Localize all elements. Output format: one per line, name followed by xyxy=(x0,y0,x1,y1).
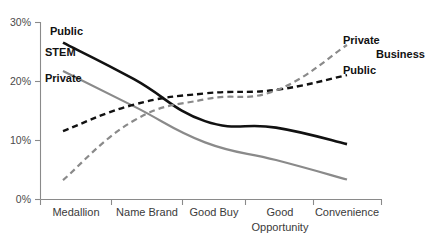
x-label-good-opportunity-line1: Good xyxy=(267,206,294,218)
x-label-good-opportunity-line2: Opportunity xyxy=(252,221,309,233)
label-stem-private: Private xyxy=(45,72,82,84)
label-stem-group: STEM xyxy=(45,46,76,58)
x-label-convenience: Convenience xyxy=(315,206,379,218)
label-stem-public: Public xyxy=(50,25,83,37)
y-tick-label-0: 0% xyxy=(16,193,31,205)
line-chart: 30% 20% 10% 0% Medallion Name Brand Good… xyxy=(0,0,431,247)
y-tick-label-30: 30% xyxy=(10,16,31,28)
y-tick-label-10: 10% xyxy=(10,134,31,146)
x-label-good-buy: Good Buy xyxy=(190,206,239,218)
chart-container: 30% 20% 10% 0% Medallion Name Brand Good… xyxy=(0,0,431,247)
y-tick-label-20: 20% xyxy=(10,75,31,87)
x-label-name-brand: Name Brand xyxy=(116,206,178,218)
label-business-private: Private xyxy=(343,34,380,46)
x-label-medallion: Medallion xyxy=(52,206,99,218)
label-business-group: Business xyxy=(376,48,425,60)
label-business-public: Public xyxy=(343,64,376,76)
